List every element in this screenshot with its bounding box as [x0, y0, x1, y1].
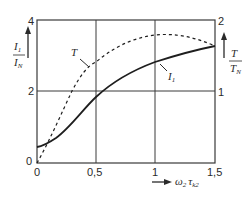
y-left-tick-0: 0 — [26, 155, 32, 167]
chart: T I1 4 2 0 2 1 0 0,5 1 1,5 I1 IN T TN ω2… — [0, 0, 250, 199]
y-left-label-denominator: IN — [13, 56, 23, 70]
y-left-tick-4: 4 — [28, 15, 34, 27]
x-arrow-icon — [164, 179, 172, 185]
x-axis-label: ω2τk2 — [175, 175, 199, 189]
annotation-I1: I1 — [167, 70, 175, 84]
y-right-label-numerator: T — [231, 47, 238, 59]
x-tick-1.5: 1,5 — [207, 166, 222, 178]
annotation-I1-leader — [160, 64, 167, 71]
series-I1-line — [37, 46, 215, 147]
x-tick-0: 0 — [34, 166, 40, 178]
y-left-arrow-icon — [25, 26, 31, 34]
y-right-label-denominator: TN — [230, 62, 241, 76]
annotation-T: T — [71, 46, 78, 58]
y-right-tick-2: 2 — [218, 15, 224, 27]
annotation-T-leader — [80, 59, 89, 67]
y-left-tick-2: 2 — [28, 85, 34, 97]
x-tick-1: 1 — [152, 166, 158, 178]
y-left-label-numerator: I1 — [13, 40, 21, 54]
series-T-line — [37, 34, 215, 163]
y-right-tick-1: 1 — [218, 86, 224, 98]
x-tick-0.5: 0,5 — [87, 166, 102, 178]
y-right-arrow-icon — [221, 32, 227, 40]
chart-svg: T I1 4 2 0 2 1 0 0,5 1 1,5 I1 IN T TN ω2… — [0, 0, 250, 199]
